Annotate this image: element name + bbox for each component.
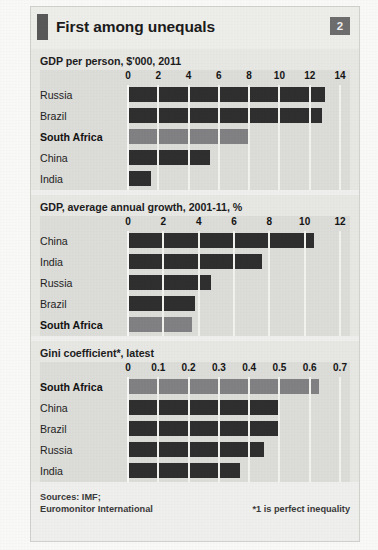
bar-category-label: South Africa	[40, 319, 128, 331]
chart-panel-2: GDP, average annual growth, 2001-11, %02…	[31, 195, 359, 336]
bar	[128, 463, 240, 478]
bar	[128, 296, 195, 311]
bar-row: Russia	[40, 440, 350, 461]
figure-header: First among unequals 2	[31, 7, 359, 49]
axis-tick-label: 0.1	[151, 362, 165, 373]
bar	[128, 442, 264, 457]
figure-number-badge: 2	[330, 17, 350, 35]
bar	[128, 171, 151, 186]
bar-row: China	[40, 398, 350, 419]
bar-category-label: South Africa	[40, 131, 128, 143]
bar	[128, 317, 192, 332]
x-axis: 02468101214	[40, 70, 350, 85]
axis-tick-label: 0.6	[303, 362, 317, 373]
axis-tick-label: 0.4	[242, 362, 256, 373]
infographic-figure: First among unequals 2 GDP per person, $…	[30, 6, 360, 542]
bar-category-label: China	[40, 235, 128, 247]
bar-row: South Africa	[40, 315, 350, 336]
axis-tick-label: 8	[267, 216, 273, 227]
chart-title: GDP per person, $'000, 2011	[31, 49, 359, 70]
bar-category-label: Russia	[40, 444, 128, 456]
axis-tick-label: 0.7	[333, 362, 347, 373]
bar	[128, 400, 279, 415]
plot-area: 00.10.20.30.40.50.60.7South AfricaChinaB…	[40, 362, 350, 482]
axis-tick-label: 6	[231, 216, 237, 227]
bar-row: Russia	[40, 273, 350, 294]
bar-row: China	[40, 148, 350, 169]
bar-row: India	[40, 461, 350, 482]
bar-row: China	[40, 231, 350, 252]
bar-category-label: China	[40, 152, 128, 164]
x-axis: 00.10.20.30.40.50.60.7	[40, 362, 350, 377]
axis-tick-label: 0.2	[182, 362, 196, 373]
axis-tick-label: 4	[196, 216, 202, 227]
sources-note: Sources: IMF; Euromonitor International	[40, 492, 153, 515]
bar-category-label: Russia	[40, 89, 128, 101]
accent-mark-icon	[37, 14, 48, 40]
bar-row: Brazil	[40, 294, 350, 315]
bar-category-label: Brazil	[40, 298, 128, 310]
axis-tick-label: 10	[274, 70, 285, 81]
bar-row: India	[40, 169, 350, 190]
bar-row: India	[40, 252, 350, 273]
bar-row: South Africa	[40, 127, 350, 148]
bar-row: Russia	[40, 85, 350, 106]
bar-category-label: China	[40, 402, 128, 414]
bar	[128, 150, 210, 165]
axis-tick-label: 0	[125, 70, 131, 81]
page-root: First among unequals 2 GDP per person, $…	[0, 0, 378, 550]
bar-row: Brazil	[40, 106, 350, 127]
axis-tick-label: 8	[246, 70, 252, 81]
axis-tick-label: 2	[161, 216, 167, 227]
chart-title: GDP, average annual growth, 2001-11, %	[31, 195, 359, 216]
bar	[128, 421, 279, 436]
bar-category-label: South Africa	[40, 381, 128, 393]
bar	[128, 233, 314, 248]
bar-category-label: India	[40, 173, 128, 185]
bars-area: ChinaIndiaRussiaBrazilSouth Africa	[40, 231, 350, 336]
bar	[128, 379, 319, 394]
x-axis: 024681012	[40, 216, 350, 231]
chart-title: Gini coefficient*, latest	[31, 341, 359, 362]
bar-category-label: India	[40, 465, 128, 477]
bar	[128, 254, 262, 269]
axis-tick-label: 14	[334, 70, 345, 81]
axis-tick-label: 0.3	[212, 362, 226, 373]
footnote-text: *1 is perfect inequality	[252, 504, 350, 514]
bar-row: Brazil	[40, 419, 350, 440]
bar-category-label: Russia	[40, 277, 128, 289]
bars-area: South AfricaChinaBrazilRussiaIndia	[40, 377, 350, 482]
axis-tick-label: 0.5	[272, 362, 286, 373]
axis-tick-label: 10	[299, 216, 310, 227]
axis-tick-label: 2	[156, 70, 162, 81]
bar-category-label: India	[40, 256, 128, 268]
bar	[128, 275, 211, 290]
bar-row: South Africa	[40, 377, 350, 398]
axis-tick-label: 12	[304, 70, 315, 81]
chart-panel-3: Gini coefficient*, latest00.10.20.30.40.…	[31, 341, 359, 482]
plot-area: 02468101214RussiaBrazilSouth AfricaChina…	[40, 70, 350, 190]
bar-category-label: Brazil	[40, 423, 128, 435]
bars-area: RussiaBrazilSouth AfricaChinaIndia	[40, 85, 350, 190]
bar	[128, 129, 249, 144]
axis-tick-label: 0	[125, 362, 131, 373]
bar-category-label: Brazil	[40, 110, 128, 122]
page-title: First among unequals	[56, 18, 215, 36]
axis-tick-label: 6	[216, 70, 222, 81]
figure-footer: Sources: IMF; Euromonitor International …	[31, 487, 359, 527]
chart-panel-1: GDP per person, $'000, 201102468101214Ru…	[31, 49, 359, 190]
bar	[128, 87, 325, 102]
charts-container: GDP per person, $'000, 201102468101214Ru…	[31, 49, 359, 482]
bar	[128, 108, 322, 123]
axis-tick-label: 0	[125, 216, 131, 227]
plot-area: 024681012ChinaIndiaRussiaBrazilSouth Afr…	[40, 216, 350, 336]
axis-tick-label: 4	[186, 70, 192, 81]
axis-tick-label: 12	[334, 216, 345, 227]
